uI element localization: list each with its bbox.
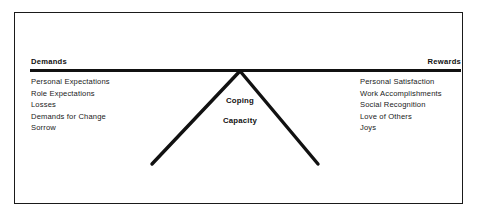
demands-list: Personal Expectations Role Expectations … (31, 76, 110, 134)
figure-root: Demands Rewards Personal Expectations Ro… (0, 0, 477, 219)
list-item: Joys (360, 122, 442, 134)
list-item: Work Accomplishments (360, 88, 442, 100)
capacity-label: Capacity (180, 116, 300, 125)
list-item: Social Recognition (360, 99, 442, 111)
coping-label: Coping (180, 96, 300, 105)
rewards-heading: Rewards (428, 57, 461, 66)
list-item: Love of Others (360, 111, 442, 123)
balance-beam (30, 69, 461, 72)
list-item: Personal Expectations (31, 76, 110, 88)
list-item: Personal Satisfaction (360, 76, 442, 88)
list-item: Sorrow (31, 122, 110, 134)
list-item: Losses (31, 99, 110, 111)
list-item: Role Expectations (31, 88, 110, 100)
rewards-list: Personal Satisfaction Work Accomplishmen… (360, 76, 442, 134)
list-item: Demands for Change (31, 111, 110, 123)
demands-heading: Demands (31, 57, 67, 66)
